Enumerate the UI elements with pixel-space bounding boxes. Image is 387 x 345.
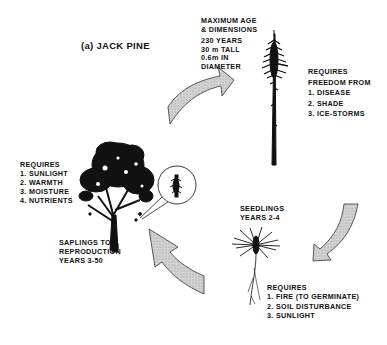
requirement-item: 4. NUTRIENTS xyxy=(20,196,73,205)
requirement-item: 1. FIRE (TO GERMINATE) xyxy=(267,292,359,301)
requires-heading: REQUIRES xyxy=(308,67,371,78)
arrow-saplings-to-mature xyxy=(168,67,234,124)
mature-detail-diameter-label: DIAMETER xyxy=(201,63,242,72)
arrow-seedlings-to-saplings xyxy=(149,229,204,294)
diagram-title: (a) JACK PINE xyxy=(81,40,150,51)
requirement-item: 2. SHADE xyxy=(308,99,371,110)
mature-heading-line: & DIMENSIONS xyxy=(201,25,257,34)
requires-heading: REQUIRES xyxy=(20,160,73,169)
seedlings-label: SEEDLINGS YEARS 2-4 xyxy=(240,204,284,222)
requires-subheading: FREEDOM FROM xyxy=(308,78,371,89)
saplings-requires: REQUIRES 1. SUNLIGHT 2. WARMTH 3. MOISTU… xyxy=(20,160,73,205)
requirement-item: 2. SOIL DISTURBANCE xyxy=(267,302,359,311)
requirement-item: 3. ICE-STORMS xyxy=(308,109,371,120)
saplings-label-line: SAPLINGS TO xyxy=(59,238,121,247)
requirement-item: 1. DISEASE xyxy=(308,88,371,99)
sapling-tree-icon xyxy=(79,142,154,252)
saplings-label: SAPLINGS TO REPRODUCTION YEARS 3-50 xyxy=(59,238,121,266)
saplings-label-line: REPRODUCTION xyxy=(59,247,121,256)
mature-details: 230 YEARS 30 m TALL 0.6m IN DIAMETER xyxy=(201,37,242,71)
arrow-mature-to-seedlings xyxy=(313,204,358,261)
requirement-item: 1. SUNLIGHT xyxy=(20,169,73,178)
seedlings-requires: REQUIRES 1. FIRE (TO GERMINATE) 2. SOIL … xyxy=(267,283,359,320)
mature-requires: REQUIRES FREEDOM FROM 1. DISEASE 2. SHAD… xyxy=(308,67,371,120)
mature-pine-tree-icon xyxy=(262,30,288,165)
requirement-item: 3. MOISTURE xyxy=(20,187,73,196)
requirement-item: 3. SUNLIGHT xyxy=(267,311,359,320)
seedlings-years: YEARS 2-4 xyxy=(240,213,284,222)
seedlings-label-line: SEEDLINGS xyxy=(240,204,284,213)
mature-heading: MAXIMUM AGE & DIMENSIONS xyxy=(201,16,257,34)
mature-heading-line: MAXIMUM AGE xyxy=(201,16,257,25)
saplings-years: YEARS 3-50 xyxy=(59,256,121,265)
requires-heading: REQUIRES xyxy=(267,283,359,292)
requirement-item: 2. WARMTH xyxy=(20,178,73,187)
